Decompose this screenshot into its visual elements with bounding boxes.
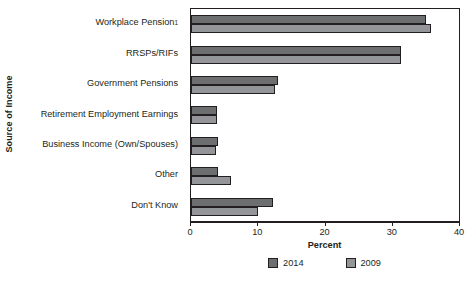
bar-2009: [191, 85, 275, 94]
x-axis-tick-labels: 010203040: [190, 227, 459, 239]
category-label-text: Business Income (Own/Spouses): [42, 140, 178, 150]
x-axis-tick-label: 20: [319, 227, 329, 237]
bar-2014: [191, 167, 218, 176]
x-axis-tick-label: 10: [252, 227, 262, 237]
chart-legend: 20142009: [190, 258, 459, 268]
category-label-text: Government Pensions: [87, 79, 178, 89]
x-axis-tick: [190, 222, 191, 226]
category-label: Other: [18, 160, 184, 190]
category-label-text: Workplace Pension: [95, 18, 174, 28]
bar-chart: Source of Income Workplace Pension1RRSPs…: [0, 0, 476, 281]
legend-item-2014: 2014: [268, 258, 303, 268]
bar-group: [191, 161, 459, 191]
x-axis-tick: [392, 222, 393, 226]
category-label-text: Don't Know: [131, 201, 178, 211]
bar-2014: [191, 76, 278, 85]
x-axis-ticks: [190, 222, 459, 226]
bar-group: [191, 192, 459, 222]
bar-groups: [191, 9, 459, 222]
x-axis-tick-label: 30: [387, 227, 397, 237]
bar-2014: [191, 106, 217, 115]
bar-2009: [191, 176, 231, 185]
legend-item-2009: 2009: [346, 258, 381, 268]
category-label-text: RRSPs/RIFs: [126, 49, 178, 59]
x-axis-tick: [325, 222, 326, 226]
bar-2009: [191, 55, 401, 64]
bar-2009: [191, 146, 216, 155]
category-label-list: Workplace Pension1RRSPs/RIFsGovernment P…: [18, 8, 184, 221]
category-label-text: Retirement Employment Earnings: [41, 110, 178, 120]
plot-area: [190, 8, 460, 223]
category-label: Don't Know: [18, 191, 184, 221]
bar-group: [191, 70, 459, 100]
y-axis-title-text: Source of Income: [4, 75, 14, 152]
category-label: Business Income (Own/Spouses): [18, 130, 184, 160]
category-label: Workplace Pension1: [18, 8, 184, 38]
legend-label-2009: 2009: [361, 258, 381, 268]
x-axis-title: Percent: [190, 240, 459, 250]
bar-group: [191, 9, 459, 39]
category-label-text: Other: [155, 170, 178, 180]
category-label: RRSPs/RIFs: [18, 38, 184, 68]
x-axis-tick-label: 0: [187, 227, 192, 237]
bar-2009: [191, 207, 258, 216]
x-axis-tick: [459, 222, 460, 226]
bar-group: [191, 39, 459, 69]
x-axis-tick: [257, 222, 258, 226]
bar-2014: [191, 46, 401, 55]
bar-2014: [191, 198, 273, 207]
legend-label-2014: 2014: [283, 258, 303, 268]
bar-2014: [191, 15, 426, 24]
legend-swatch-2014: [268, 258, 278, 268]
bar-group: [191, 100, 459, 130]
bar-2009: [191, 24, 431, 33]
category-label: Retirement Employment Earnings: [18, 99, 184, 129]
bar-2014: [191, 137, 218, 146]
legend-swatch-2009: [346, 258, 356, 268]
category-label: Government Pensions: [18, 69, 184, 99]
bar-group: [191, 131, 459, 161]
x-axis-tick-label: 40: [454, 227, 464, 237]
bar-2009: [191, 115, 217, 124]
y-axis-title: Source of Income: [0, 0, 18, 228]
